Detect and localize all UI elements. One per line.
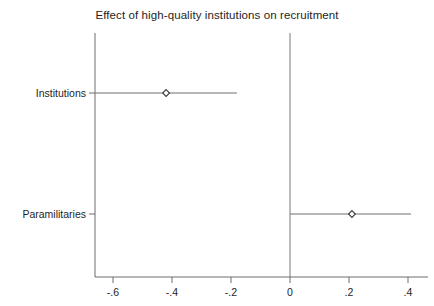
x-axis-ticks [113, 277, 408, 283]
x-axis-tick-label: -.4 [166, 286, 178, 298]
estimate-series [95, 90, 411, 218]
x-axis-tick-label: .4 [404, 286, 413, 298]
estimate-marker [349, 211, 356, 218]
x-axis-tick-label: -.6 [107, 286, 119, 298]
x-axis-tick-label: -.2 [225, 286, 237, 298]
y-axis-label-paramilitaries: Paramilitaries [22, 208, 86, 220]
coefficient-plot: Effect of high-quality institutions on r… [0, 0, 434, 306]
plot-area [0, 0, 434, 306]
y-axis-ticks [89, 93, 95, 214]
y-axis-label-institutions: Institutions [36, 87, 86, 99]
x-axis-tick-label: .2 [345, 286, 354, 298]
x-axis-tick-label: 0 [287, 286, 293, 298]
estimate-marker [163, 90, 170, 97]
